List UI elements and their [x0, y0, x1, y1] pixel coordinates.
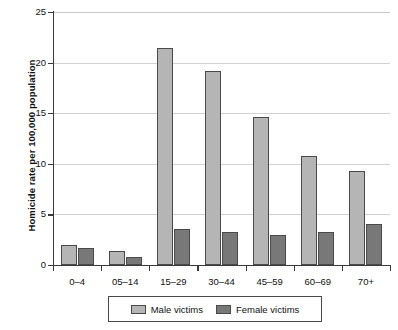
x-axis-tick [294, 266, 295, 271]
legend-swatch-male-icon [131, 305, 146, 314]
x-axis-tick [390, 266, 391, 271]
gridline [53, 12, 390, 13]
gridline [53, 164, 390, 165]
bar-male [301, 156, 317, 265]
legend-label-male: Male victims [151, 304, 203, 315]
chart-legend: Male victims Female victims [108, 296, 322, 322]
gridline [53, 214, 390, 215]
x-axis-tick-label: 70+ [358, 276, 374, 287]
x-axis-tick [197, 266, 198, 271]
x-axis-tick [53, 266, 54, 271]
chart-figure: Homicide rate per 100,000 population Mal… [0, 0, 398, 330]
bar-female [366, 224, 382, 265]
y-axis-tick-label: 10 [6, 159, 46, 169]
bar-female [78, 248, 94, 265]
x-axis-line [53, 265, 391, 266]
y-axis-tick [48, 63, 53, 64]
y-axis-tick-label: 0 [6, 260, 46, 270]
x-axis-tick-label: 60–69 [305, 276, 331, 287]
x-axis-tick [246, 266, 247, 271]
legend-swatch-female-icon [216, 305, 231, 314]
legend-label-female: Female victims [236, 304, 299, 315]
x-axis-tick [149, 266, 150, 271]
x-axis-tick [342, 266, 343, 271]
y-axis-tick [48, 164, 53, 165]
bar-female [318, 232, 334, 265]
legend-item-female: Female victims [216, 304, 299, 315]
bar-female [270, 235, 286, 265]
y-axis-tick-label: 5 [6, 209, 46, 219]
x-axis-tick-label: 0–4 [69, 276, 85, 287]
bar-male [205, 71, 221, 265]
bar-male [253, 117, 269, 265]
y-axis-tick [48, 12, 53, 13]
y-axis-tick-label: 25 [6, 7, 46, 17]
bar-male [109, 251, 125, 265]
plot-area [53, 12, 390, 265]
gridline [53, 63, 390, 64]
legend-item-male: Male victims [131, 304, 203, 315]
x-axis-tick-label: 45–59 [256, 276, 282, 287]
gridline [53, 113, 390, 114]
x-axis-tick-label: 15–29 [160, 276, 186, 287]
y-axis-tick [48, 113, 53, 114]
y-axis-tick [48, 214, 53, 215]
bar-male [61, 245, 77, 265]
y-axis-line [53, 11, 54, 266]
bar-female [222, 232, 238, 265]
y-axis-tick-label: 15 [6, 108, 46, 118]
x-axis-tick-label: 05–14 [112, 276, 138, 287]
bar-female [174, 229, 190, 265]
bar-female [126, 257, 142, 265]
bar-male [157, 48, 173, 265]
bar-male [349, 171, 365, 265]
y-axis-tick-label: 20 [6, 58, 46, 68]
x-axis-tick [101, 266, 102, 271]
x-axis-tick-label: 30–44 [208, 276, 234, 287]
